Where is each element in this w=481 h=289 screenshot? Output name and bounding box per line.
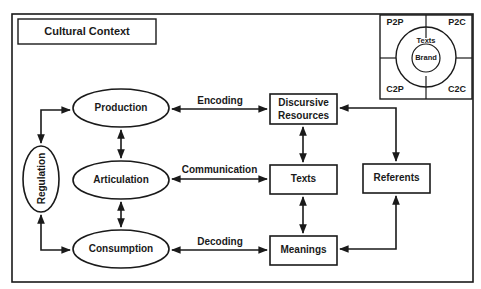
articulation-label: Articulation (73, 174, 169, 185)
encoding-label: Encoding (180, 95, 260, 106)
inset-texts-label: Texts (410, 37, 442, 45)
inset-p2c: P2C (445, 18, 469, 28)
discursive-label-line1: Discursive (270, 97, 337, 108)
decoding-label: Decoding (180, 236, 260, 247)
referents-label: Referents (363, 172, 430, 183)
meanings-label: Meanings (270, 244, 337, 255)
communication-label: Communication (172, 164, 267, 175)
inset-c2p: C2P (383, 85, 407, 95)
page-title: Cultural Context (18, 25, 156, 37)
discursive-label-line2: Resources (270, 110, 337, 121)
texts-label: Texts (270, 173, 337, 184)
regulation-label: Regulation (36, 149, 47, 209)
consumption-label: Consumption (73, 243, 169, 254)
inset-c2c: C2C (445, 85, 469, 95)
production-label: Production (73, 102, 169, 113)
inset-p2p: P2P (383, 18, 407, 28)
inset-brand-label: Brand (410, 54, 442, 62)
